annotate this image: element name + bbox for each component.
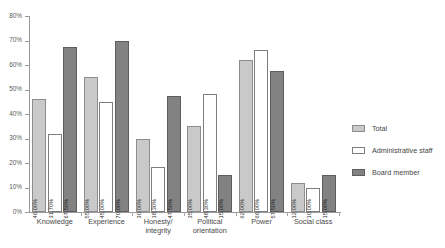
bar: 62.00% [239,60,253,212]
category-label: Experience [81,217,133,226]
chart-legend: TotalAdministrative staffBoard member [352,123,433,189]
legend-swatch [352,147,365,154]
bar: 30.00% [136,139,150,213]
bar-value-label: 62.00% [240,199,246,219]
y-axis-tick-label: 40% [0,111,22,117]
bar: 67.50% [63,47,77,212]
bar-value-label: 31.70% [49,199,55,219]
plot-area: 46.00%31.70%67.50%55.00%45.00%70.00%30.0… [29,16,339,212]
category-label-line: Knowledge [29,217,81,226]
legend-item: Administrative staff [352,145,433,156]
y-axis-tick-label: 0% [0,209,22,215]
bar: 55.00% [84,77,98,212]
bar: 48.30% [203,94,217,212]
x-axis-separator [287,212,288,216]
category-label: Politicalorientation [184,217,236,236]
y-axis-tick-label: 50% [0,86,22,92]
bar-value-label: 30.00% [137,199,143,219]
bar-value-label: 48.30% [204,199,210,219]
legend-item: Total [352,123,433,134]
legend-label: Total [372,125,387,132]
category-label-line: Experience [81,217,133,226]
bar-value-label: 46.00% [34,199,40,219]
bar: 15.00% [322,175,336,212]
bar-value-label: 15.00% [323,199,329,219]
bar-value-label: 67.50% [65,199,71,219]
y-axis-tick-label: 60% [0,62,22,68]
category-label: Social class [287,217,339,226]
category-label-line: Social class [287,217,339,226]
bar-group: 30.00%18.30%47.50% [132,16,184,212]
bar-value-label: 12.00% [292,199,298,219]
bar-group: 46.00%31.70%67.50% [29,16,81,212]
legend-swatch [352,125,365,132]
x-axis-separator [184,212,185,216]
category-label-line: Power [236,217,288,226]
bar-value-label: 47.50% [168,199,174,219]
bar-value-label: 55.00% [85,199,91,219]
bar-value-label: 18.30% [153,199,159,219]
category-label-line: Honesty/ [132,217,184,226]
bar: 31.70% [48,134,62,212]
bar: 70.00% [115,41,129,213]
bar-value-label: 15.00% [220,199,226,219]
bar: 57.50% [270,71,284,212]
legend-label: Board member [372,169,420,176]
bar-value-label: 70.00% [116,199,122,219]
x-axis-separator [132,212,133,216]
category-label-line: orientation [184,226,236,235]
category-label: Knowledge [29,217,81,226]
y-axis-tick-label: 80% [0,13,22,19]
bar: 10.00% [306,188,320,213]
y-axis-tick-label: 70% [0,37,22,43]
y-axis-tick-label: 30% [0,135,22,141]
bar-group: 62.00%66.00%57.50% [236,16,288,212]
bar-value-label: 10.00% [308,199,314,219]
x-axis-separator [339,212,340,216]
legend-item: Board member [352,167,433,178]
bar-value-label: 66.00% [256,199,262,219]
category-label-line: Political [184,217,236,226]
bar: 45.00% [99,102,113,212]
bar: 47.50% [167,96,181,212]
category-label-line: integrity [132,226,184,235]
bar-value-label: 35.00% [189,199,195,219]
bar-value-label: 45.00% [101,199,107,219]
category-label: Honesty/integrity [132,217,184,236]
bar: 35.00% [187,126,201,212]
x-axis-separator [81,212,82,216]
bar: 12.00% [291,183,305,212]
bar: 46.00% [32,99,46,212]
y-axis-tick-label: 10% [0,184,22,190]
y-axis-tick-label: 20% [0,160,22,166]
category-label: Power [236,217,288,226]
legend-swatch [352,169,365,176]
bar: 15.00% [218,175,232,212]
bar-group: 55.00%45.00%70.00% [81,16,133,212]
y-axis-tick [25,212,29,213]
x-axis-separator [236,212,237,216]
legend-label: Administrative staff [372,147,433,154]
bar-value-label: 57.50% [271,199,277,219]
bar-group: 35.00%48.30%15.00% [184,16,236,212]
bar-chart: 0%10%20%30%40%50%60%70%80% 46.00%31.70%6… [0,0,445,248]
bar: 66.00% [254,50,268,212]
bar-group: 12.00%10.00%15.00% [287,16,339,212]
bar: 18.30% [151,167,165,212]
